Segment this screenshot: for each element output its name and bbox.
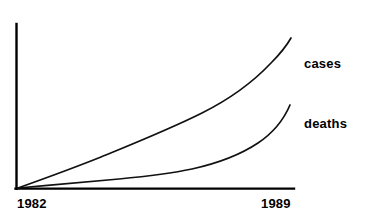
series-label-cases: cases xyxy=(304,57,341,71)
series-label-deaths: deaths xyxy=(304,117,347,131)
series-line-deaths xyxy=(18,105,290,188)
x-axis-tick-label-start: 1982 xyxy=(17,197,47,211)
x-axis-tick-label-end: 1989 xyxy=(261,197,291,211)
chart-figure: 1982 1989 cases deaths xyxy=(0,0,365,224)
series-line-cases xyxy=(18,38,291,188)
chart-plot-area xyxy=(0,0,365,224)
